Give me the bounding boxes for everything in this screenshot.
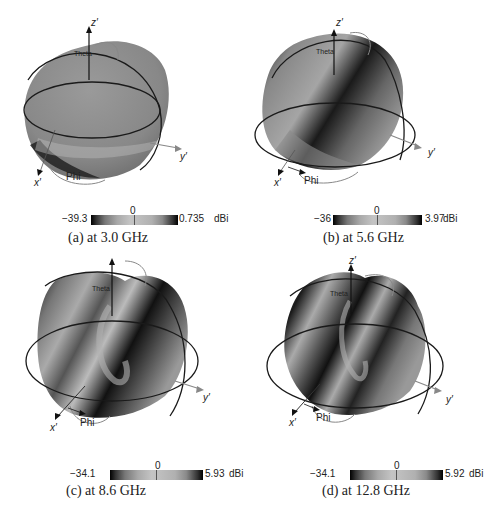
z-axis-label: z′ xyxy=(335,17,344,28)
panel-caption: (a) at 3.0 GHz xyxy=(68,230,148,246)
radiation-pattern-3d-b: z′ y′ x′ Phi Theta xyxy=(250,0,499,205)
theta-label: Theta xyxy=(92,285,110,292)
phi-label: Phi xyxy=(316,412,330,423)
y-axis xyxy=(415,381,438,390)
panel-a: z′ y′ x′ Phi Theta −39.3 0 0.735 dBi (a)… xyxy=(0,0,249,255)
colorbar xyxy=(333,215,422,225)
colorbar-min: −34.1 xyxy=(310,468,335,479)
y-axis-label: y′ xyxy=(445,394,454,405)
colorbar-unit: dBi xyxy=(443,213,457,224)
pattern-surface xyxy=(284,272,425,415)
theta-label: Theta xyxy=(330,290,348,297)
colorbar-min: −39.3 xyxy=(62,213,87,224)
y-axis xyxy=(175,381,200,389)
x-axis-label: x′ xyxy=(49,422,58,433)
panel-caption: (d) at 12.8 GHz xyxy=(322,483,410,499)
radiation-pattern-3d-c: y′ x′ Phi Theta xyxy=(0,256,249,456)
phi-label: Phi xyxy=(80,417,94,428)
panel-caption: (b) at 5.6 GHz xyxy=(323,230,404,246)
y-axis-label: y′ xyxy=(202,392,211,403)
colorbar xyxy=(91,215,178,225)
colorbar-min: −34.1 xyxy=(70,468,95,479)
colorbar-max: 5.92 xyxy=(445,468,464,479)
radiation-pattern-3d-a: z′ y′ x′ Phi Theta xyxy=(0,0,249,205)
panel-b: z′ y′ x′ Phi Theta −36 0 3.97 dBi (b) at… xyxy=(250,0,499,255)
theta-label: Theta xyxy=(316,48,334,55)
pattern-surface xyxy=(38,272,188,417)
x-axis-label: x′ xyxy=(273,177,282,188)
z-axis-label: z′ xyxy=(348,256,357,266)
colorbar-max: 5.93 xyxy=(205,468,224,479)
theta-label: Theta xyxy=(74,50,92,57)
colorbar-max: 3.97 xyxy=(425,213,444,224)
colorbar-unit: dBi xyxy=(469,468,483,479)
colorbar-min: −36 xyxy=(314,213,331,224)
colorbar xyxy=(110,470,203,480)
x-axis-label: x′ xyxy=(33,177,42,188)
radiation-pattern-3d-d: z′ y′ x′ Phi Theta xyxy=(250,256,499,456)
y-axis-label: y′ xyxy=(179,151,188,162)
phi-label: Phi xyxy=(66,171,80,182)
colorbar-unit: dBi xyxy=(229,468,243,479)
z-axis-label: z′ xyxy=(90,17,99,28)
colorbar-unit: dBi xyxy=(214,213,228,224)
panel-caption: (c) at 8.6 GHz xyxy=(66,483,146,499)
x-axis-label: x′ xyxy=(288,417,297,428)
y-axis-label: y′ xyxy=(427,147,436,158)
panel-d: z′ y′ x′ Phi Theta −34.1 0 5.92 dBi (d) … xyxy=(250,256,499,511)
panel-c: y′ x′ Phi Theta −34.1 0 5.93 dBi (c) at … xyxy=(0,256,249,511)
colorbar-max: 0.735 xyxy=(179,213,204,224)
colorbar xyxy=(350,470,443,480)
phi-label: Phi xyxy=(304,175,318,186)
